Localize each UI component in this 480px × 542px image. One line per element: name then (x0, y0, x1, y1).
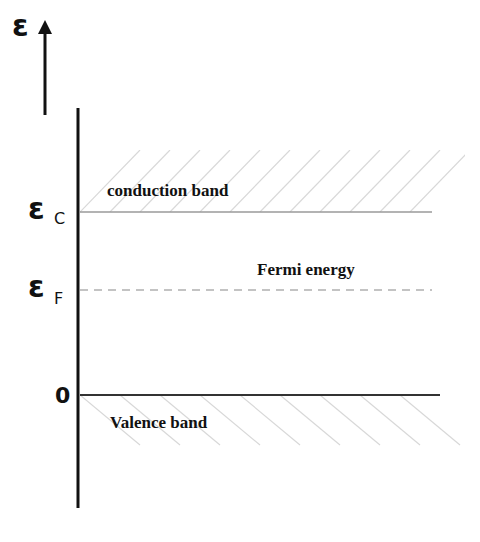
fermi-symbol: ε (28, 269, 45, 304)
conduction-symbol: ε (28, 191, 45, 226)
fermi-energy-label: Fermi energy (257, 260, 355, 279)
zero-label: 0 (55, 383, 70, 408)
band-diagram: ε ε C ε F 0 conduction band Fer (0, 0, 480, 542)
energy-arrow (38, 20, 52, 115)
energy-axis-symbol: ε (12, 8, 29, 43)
conduction-subscript: C (54, 209, 65, 228)
valence-band-label: Valence band (110, 413, 208, 432)
conduction-band-label: conduction band (107, 181, 229, 200)
fermi-subscript: F (54, 289, 63, 308)
